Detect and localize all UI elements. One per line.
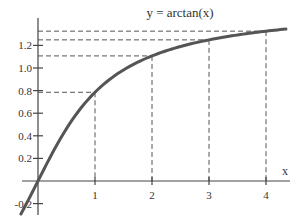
arctan-curve [21,29,286,214]
y-tick-label: 0.8 [18,85,32,97]
x-tick-label: 3 [206,189,212,201]
chart-title: y = arctan(x) [146,5,213,20]
dashed-guides [38,31,266,181]
y-tick-label: 0.2 [18,152,32,164]
y-tick-label: 0.4 [18,130,32,142]
x-tick-label: 2 [149,189,155,201]
y-tick-label: 0.6 [18,107,32,119]
y-tick-label: 1.2 [18,39,32,51]
y-tick-label: 1.0 [18,62,32,74]
x-tick-label: 4 [263,189,269,201]
arctan-chart: 1234-0.20.20.40.60.81.01.2 y = arctan(x)… [0,0,297,220]
ticks: 1234-0.20.20.40.60.81.01.2 [15,39,270,209]
x-tick-label: 1 [92,189,98,201]
x-axis-label: x [282,164,288,178]
axes [22,18,290,215]
